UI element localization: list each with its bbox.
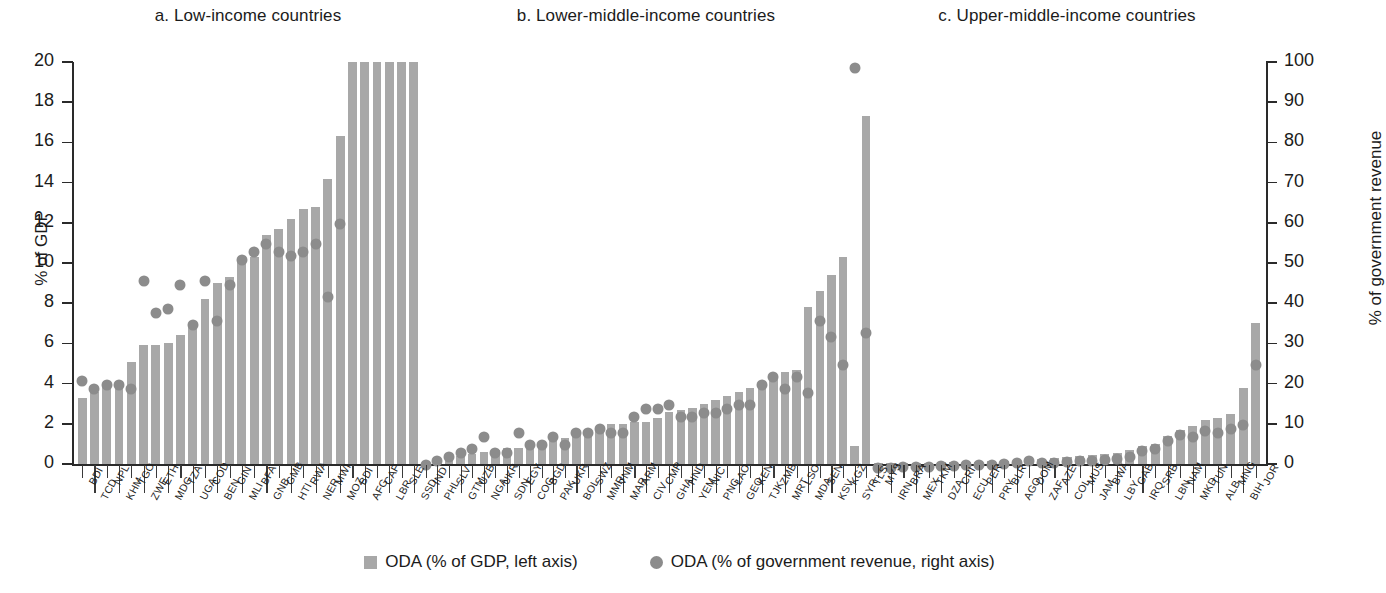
y-tick-right-60 [1266, 222, 1277, 224]
data-point-dot [467, 444, 478, 455]
data-point-dot [722, 404, 733, 415]
y-label-left-2: 2 [14, 412, 54, 433]
x-tick [1054, 465, 1055, 478]
data-point-dot [443, 452, 454, 463]
y-tick-right-20 [1266, 383, 1277, 385]
y-label-right-30: 30 [1284, 331, 1332, 352]
data-point-dot [861, 327, 872, 338]
data-point-dot [1238, 420, 1249, 431]
bar [115, 382, 124, 464]
y-axis-title-left: % of GDP [32, 188, 52, 308]
bar [758, 384, 766, 464]
bar [250, 257, 259, 464]
y-label-right-0: 0 [1284, 452, 1332, 473]
bar [514, 448, 522, 464]
data-point-dot [501, 448, 512, 459]
data-point-dot [490, 448, 501, 459]
data-point-dot [114, 380, 125, 391]
data-point-dot [1225, 424, 1236, 435]
y-label-left-0: 0 [14, 452, 54, 473]
bar [274, 229, 283, 464]
data-point-dot [212, 315, 223, 326]
data-point-dot [652, 404, 663, 415]
x-axis-label: NPL [111, 462, 131, 486]
data-point-dot [780, 384, 791, 395]
data-point-dot [298, 247, 309, 258]
bar [90, 392, 99, 464]
y-tick-right-70 [1266, 182, 1277, 184]
data-point-dot [1124, 452, 1135, 463]
bar [792, 370, 800, 464]
data-point-dot [803, 388, 814, 399]
y-tick-right-30 [1266, 343, 1277, 345]
x-axis-label: TZA [184, 463, 204, 487]
data-point-dot [335, 219, 346, 230]
panel-title-c: c. Upper-middle-income countries [767, 6, 1367, 26]
x-tick [1231, 465, 1232, 478]
bar [665, 412, 673, 464]
data-point-dot [273, 247, 284, 258]
bar [1251, 323, 1260, 464]
data-point-dot [224, 279, 235, 290]
y-axis-title-right: % of government revenue [1366, 113, 1386, 343]
data-point-dot [826, 331, 837, 342]
data-point-dot [606, 428, 617, 439]
y-label-left-20: 20 [14, 50, 54, 71]
bar [769, 378, 777, 464]
bar [213, 283, 222, 464]
x-tick [903, 465, 904, 478]
y-label-right-70: 70 [1284, 171, 1332, 192]
data-point-dot [322, 291, 333, 302]
bar [385, 62, 394, 464]
data-point-dot [1150, 444, 1161, 455]
y-label-right-50: 50 [1284, 251, 1332, 272]
data-point-dot [617, 428, 628, 439]
data-point-dot [1212, 428, 1223, 439]
y-label-left-14: 14 [14, 171, 54, 192]
data-point-dot [571, 428, 582, 439]
data-point-dot [1187, 432, 1198, 443]
y-label-right-60: 60 [1284, 211, 1332, 232]
y-label-left-16: 16 [14, 130, 54, 151]
data-point-dot [89, 384, 100, 395]
bar [78, 398, 87, 464]
data-point-dot [791, 372, 802, 383]
bar [468, 454, 476, 464]
legend-item-oda-gdp: ODA (% of GDP, left axis) [364, 552, 577, 572]
bar [827, 275, 835, 464]
y-tick-right-90 [1266, 101, 1277, 103]
data-point-dot [594, 424, 605, 435]
bar [127, 362, 136, 465]
data-point-dot [126, 384, 137, 395]
bar [630, 422, 638, 464]
x-axis-label: HTI [295, 481, 314, 502]
data-point-dot [733, 400, 744, 411]
y-label-right-10: 10 [1284, 412, 1332, 433]
data-point-dot [1175, 430, 1186, 441]
bar [862, 116, 870, 464]
data-point-dot [629, 412, 640, 423]
x-tick [1155, 465, 1156, 478]
x-axis-label: BDI [86, 465, 105, 487]
data-point-dot [1200, 426, 1211, 437]
y-label-left-4: 4 [14, 372, 54, 393]
bar [188, 323, 197, 464]
data-point-dot [163, 303, 174, 314]
x-tick [472, 465, 473, 478]
data-point-dot [513, 428, 524, 439]
bar [397, 62, 406, 464]
bar [102, 384, 111, 464]
data-point-dot [261, 239, 272, 250]
data-point-dot [838, 359, 849, 370]
y-label-left-18: 18 [14, 90, 54, 111]
y-tick-right-40 [1266, 302, 1277, 304]
bar [323, 179, 332, 464]
x-tick [727, 465, 728, 478]
y-tick-right-100 [1266, 61, 1277, 63]
data-point-dot [1137, 446, 1148, 457]
bar [139, 345, 148, 464]
x-tick [449, 465, 450, 478]
data-point-dot [200, 275, 211, 286]
data-point-dot [187, 319, 198, 330]
